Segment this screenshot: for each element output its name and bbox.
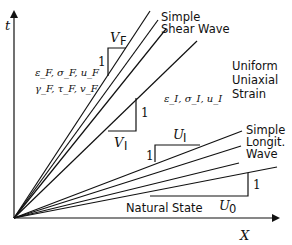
svg-text:Uniaxial: Uniaxial xyxy=(232,73,278,87)
wave-diagram: t X 1 V F 1 V I 1 U I 1 U 0 xyxy=(0,0,292,245)
svg-text:Shear Wave: Shear Wave xyxy=(161,22,230,36)
t-axis-label: t xyxy=(5,18,11,33)
svg-text:Strain: Strain xyxy=(232,87,266,101)
svg-text:Wave: Wave xyxy=(246,147,278,161)
uniform-strain-label: Uniform Uniaxial Strain xyxy=(232,59,278,101)
shear-wave-fan xyxy=(14,11,197,218)
svg-text:ε_F, σ_F, u_F: ε_F, σ_F, u_F xyxy=(35,67,100,79)
x-axis-label: X xyxy=(239,228,250,243)
svg-text:I: I xyxy=(124,139,127,153)
natural-state-label: Natural State xyxy=(126,201,203,215)
svg-text:I: I xyxy=(183,131,186,145)
svg-text:0: 0 xyxy=(229,202,236,216)
far-field-state-label: ε_F, σ_F, u_F γ_F, τ_F, v_F xyxy=(35,67,100,95)
svg-text:1: 1 xyxy=(146,149,154,163)
svg-text:F: F xyxy=(120,34,127,48)
shear-wave-label: Simple Shear Wave xyxy=(161,10,230,36)
svg-text:1: 1 xyxy=(98,55,106,69)
svg-text:γ_F, τ_F, v_F: γ_F, τ_F, v_F xyxy=(35,83,99,95)
svg-text:1: 1 xyxy=(141,106,149,120)
intermediate-state-label: ε_I, σ_I, u_I xyxy=(164,93,223,105)
longitudinal-wave-label: Simple Longit. Wave xyxy=(246,123,285,161)
slope-triangle-vi: 1 V I xyxy=(108,98,149,153)
svg-text:1: 1 xyxy=(253,178,261,192)
svg-text:Uniform: Uniform xyxy=(232,59,278,73)
